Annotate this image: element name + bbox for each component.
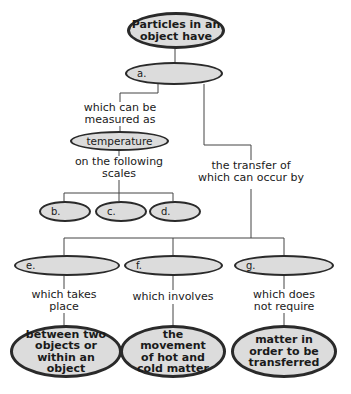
blank-b-node[interactable]: b. xyxy=(39,201,91,222)
link-measured-as: which can be measured as xyxy=(75,102,165,126)
blank-f-node[interactable]: f. xyxy=(124,255,223,276)
link-involves: which involves xyxy=(125,291,221,303)
blank-c-node[interactable]: c. xyxy=(95,201,147,222)
root-concept-node: Particles in an object have xyxy=(127,12,225,49)
blank-g-node[interactable]: g. xyxy=(234,255,334,276)
link-does-not-require: which does not require xyxy=(244,289,324,313)
blank-a-node[interactable]: a. xyxy=(125,62,223,85)
link-takes-place: which takes place xyxy=(24,289,104,313)
link-transfer-of: the transfer of which can occur by xyxy=(195,160,307,184)
detail-movement-node: the movement of hot and cold matter xyxy=(120,325,226,378)
temperature-node: temperature xyxy=(70,131,169,151)
detail-between-objects-node: between two objects or within an object xyxy=(10,325,122,378)
link-following-scales: on the following scales xyxy=(70,156,168,180)
blank-e-node[interactable]: e. xyxy=(14,255,120,276)
blank-d-node[interactable]: d. xyxy=(149,201,201,222)
detail-matter-not-required-node: matter in order to be transferred xyxy=(231,325,337,378)
